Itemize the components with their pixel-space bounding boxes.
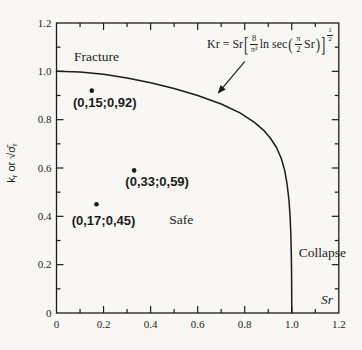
annotation-arrow-line: [221, 62, 245, 90]
y-axis-title: kr or √σ̄r: [5, 143, 19, 183]
right-paren: ): [316, 36, 320, 52]
left-bracket: [: [244, 34, 248, 54]
curve-equation: Kr = Sr [ 8π² ln sec ( π2 Sr ) ] 12: [207, 31, 333, 57]
x-tick-label: 0.6: [191, 318, 205, 330]
y-tick-label: 1.0: [38, 65, 52, 77]
equation-lhs: Kr = Sr: [207, 38, 243, 50]
plot-border: [57, 23, 339, 313]
region-label-safe: Safe: [169, 212, 193, 227]
x-tick-label: 0.8: [238, 318, 252, 330]
x-axis-title: Sr: [321, 292, 334, 307]
drying-fracture-diagram: 000.20.20.40.40.60.60.80.81.01.01.21.2(0…: [0, 0, 362, 350]
fraction-8-pi2: 8π²: [250, 34, 257, 54]
equation-arg: Sr: [304, 38, 315, 50]
fraction-pi-2: π2: [295, 34, 302, 54]
y-tick-label: 0.8: [38, 113, 52, 125]
y-tick-label: 0.2: [38, 258, 52, 270]
data-point-label: (0,15;0,92): [73, 95, 137, 110]
data-point: [132, 168, 137, 173]
data-point: [89, 88, 94, 93]
data-point-label: (0,17;0,45): [72, 213, 136, 228]
region-label-fracture: Fracture: [74, 49, 119, 64]
x-tick-label: 0: [54, 318, 60, 330]
region-label-collapse: Collapse: [299, 245, 346, 260]
x-tick-label: 1.2: [332, 318, 346, 330]
x-tick-label: 0.2: [97, 318, 111, 330]
exponent-one-half: 12: [327, 27, 333, 43]
left-paren: (: [288, 36, 292, 52]
data-point-label: (0,33;0,59): [125, 174, 189, 189]
equation-lnsec: ln sec: [260, 38, 288, 50]
x-tick-label: 0.4: [144, 318, 158, 330]
right-bracket: ]: [321, 34, 325, 54]
x-tick-label: 1.0: [285, 318, 299, 330]
y-tick-label: 0.6: [38, 162, 52, 174]
y-tick-label: 0: [46, 307, 52, 319]
y-tick-label: 0.4: [38, 210, 52, 222]
data-point: [94, 202, 99, 207]
y-tick-label: 1.2: [38, 17, 52, 29]
